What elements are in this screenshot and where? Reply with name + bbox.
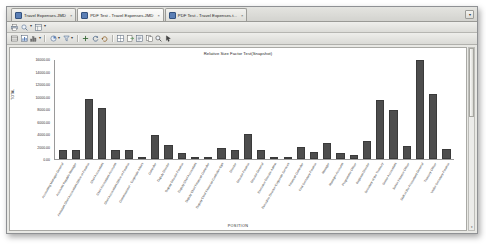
close-icon[interactable]: × <box>70 13 72 18</box>
bar[interactable] <box>98 108 106 159</box>
bar[interactable] <box>204 157 212 159</box>
toolbar-separator <box>112 35 114 42</box>
bar-slot <box>162 60 175 159</box>
bar[interactable] <box>336 153 344 159</box>
zoom-icon[interactable] <box>21 24 28 31</box>
bar-chart-icon[interactable] <box>30 35 37 42</box>
x-axis-tick: Accounting Manager-General <box>40 162 64 199</box>
bar-slot <box>255 60 268 159</box>
bar[interactable] <box>323 143 331 159</box>
bar[interactable] <box>231 150 239 159</box>
chevron-down-icon[interactable]: ▾ <box>44 25 46 29</box>
bar-slot <box>321 60 334 159</box>
bar[interactable] <box>244 134 252 159</box>
copy-icon[interactable] <box>146 35 153 42</box>
document-icon <box>169 12 176 19</box>
report-canvas[interactable]: Relative Size Factor Test(Snapshot) TOTA… <box>9 47 467 231</box>
bar[interactable] <box>191 157 199 160</box>
bar-slot <box>307 60 320 159</box>
grid-icon[interactable] <box>117 35 124 42</box>
table-icon[interactable] <box>11 35 18 42</box>
bar-slot <box>347 60 360 159</box>
bar-slot <box>334 60 347 159</box>
bar-slot <box>387 60 400 159</box>
tab-label: Travel Expenses.JMD <box>24 13 66 18</box>
properties-icon[interactable] <box>136 35 143 42</box>
y-axis-tick: 12000.00 <box>35 83 50 87</box>
bar[interactable] <box>85 99 93 159</box>
add-icon[interactable] <box>82 35 89 42</box>
tab-strip-controls: ▾ <box>465 10 474 19</box>
bar-slot <box>215 60 228 159</box>
bar[interactable] <box>151 135 159 159</box>
undo-icon[interactable] <box>101 35 108 42</box>
bar-slot <box>135 60 148 159</box>
x-axis-tick: Director <box>229 162 238 173</box>
bar[interactable] <box>310 152 318 160</box>
bar[interactable] <box>270 157 278 159</box>
bar-slot <box>96 60 109 159</box>
bar[interactable] <box>257 150 265 159</box>
bar-slot <box>374 60 387 159</box>
x-tick-slot: Under Secretary-Finance <box>441 161 454 209</box>
bar[interactable] <box>111 150 119 159</box>
export-icon[interactable] <box>127 35 134 42</box>
refresh-icon[interactable] <box>92 35 99 42</box>
bar[interactable] <box>284 157 292 159</box>
toolbar-top: ▾ ▾ <box>7 22 477 33</box>
bar[interactable] <box>363 141 371 159</box>
bar-slot <box>400 60 413 159</box>
x-tick-slot: Deputy Chief Financial Controller-Ops <box>214 161 227 209</box>
scroll-down-icon[interactable]: ▾ <box>469 224 474 230</box>
y-axis-tick: 16000.00 <box>35 58 50 62</box>
plot-grid <box>54 60 454 160</box>
search-icon[interactable] <box>155 35 162 42</box>
bar-slot <box>360 60 373 159</box>
scrollbar-thumb[interactable] <box>469 48 474 117</box>
chart-title: Relative Size Factor Test(Snapshot) <box>10 51 466 56</box>
bar[interactable] <box>376 100 384 159</box>
bar[interactable] <box>429 94 437 159</box>
page-layout-icon[interactable] <box>35 24 42 31</box>
print-icon[interactable] <box>11 24 18 31</box>
x-tick-slot: Assistant Chief Accountant-Office of Fin… <box>81 161 94 209</box>
bar[interactable] <box>416 60 424 159</box>
bar[interactable] <box>350 155 358 159</box>
tab-travel-expenses[interactable]: Travel Expenses.JMD × <box>11 8 76 21</box>
bar-series <box>55 60 454 159</box>
pie-chart-icon[interactable] <box>50 35 57 42</box>
chevron-down-icon[interactable]: ▾ <box>58 37 60 41</box>
tab-pdf-test-travel-expenses[interactable]: PDF Test - Travel Expenses.JMD × <box>77 8 164 21</box>
bar[interactable] <box>59 150 67 159</box>
vertical-scrollbar[interactable]: ▴ ▾ <box>468 47 475 231</box>
bar-slot <box>69 60 82 159</box>
chart-icon[interactable] <box>21 35 28 42</box>
bar-slot <box>440 60 453 159</box>
bar[interactable] <box>164 145 172 159</box>
chevron-down-icon[interactable]: ▾ <box>71 37 73 41</box>
close-icon[interactable]: × <box>157 13 159 18</box>
bar[interactable] <box>72 150 80 159</box>
bar[interactable] <box>125 150 133 159</box>
chevron-down-icon[interactable]: ▾ <box>39 37 41 41</box>
bar-slot <box>122 60 135 159</box>
bar[interactable] <box>403 146 411 159</box>
bar[interactable] <box>389 110 397 159</box>
tab-list-dropdown-icon[interactable]: ▾ <box>465 10 474 19</box>
bar[interactable] <box>138 157 146 159</box>
bar[interactable] <box>217 148 225 159</box>
close-icon[interactable]: × <box>241 13 243 18</box>
x-tick-slot: Controller <box>147 161 160 209</box>
bar[interactable] <box>178 153 186 159</box>
bar[interactable] <box>442 149 450 159</box>
filter-icon[interactable] <box>63 35 70 42</box>
x-axis-title: POSITION <box>10 224 466 228</box>
x-axis-tick-labels: Accounting Manager-GeneralAccounts Payab… <box>54 161 454 209</box>
bar[interactable] <box>297 147 305 160</box>
x-tick-slot: Director-Finance <box>241 161 254 209</box>
y-axis-tick-labels: 16000.0014000.0012000.0010000.008000.006… <box>10 60 52 160</box>
tab-pdf-test-travel-expenses-2[interactable]: PDF Test - Travel Expenses.t... × <box>165 8 248 21</box>
bar-slot <box>149 60 162 159</box>
chevron-down-icon[interactable]: ▾ <box>30 25 32 29</box>
pointer-icon[interactable] <box>165 35 172 42</box>
